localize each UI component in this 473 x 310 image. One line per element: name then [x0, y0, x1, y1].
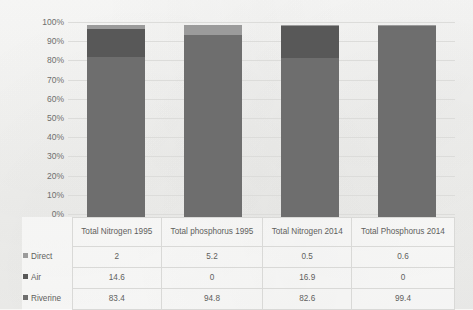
direct-swatch: [23, 253, 28, 258]
stacked-bar[interactable]: [378, 25, 436, 217]
stacked-bar[interactable]: [281, 25, 339, 217]
legend-item-air[interactable]: Air: [22, 268, 73, 289]
legend-label: Air: [31, 273, 41, 282]
bar-segment-riverine[interactable]: [281, 58, 339, 217]
y-axis-tick-label: 30%: [20, 151, 64, 161]
bar-segment-direct[interactable]: [184, 25, 242, 35]
bar-group: [68, 22, 455, 214]
legend-label: Direct: [31, 252, 52, 261]
table-cell: 99.4: [351, 289, 454, 310]
legend-item-riverine[interactable]: Riverine: [22, 289, 73, 310]
legend-label: Riverine: [31, 294, 61, 303]
table-row: Air14.6016.90: [22, 268, 455, 289]
table-column-header: Total Phosphorus 2014: [351, 218, 454, 247]
plot-area: [68, 22, 455, 214]
table-column-header: Total Nitrogen 1995: [73, 218, 162, 247]
table-cell: 16.9: [263, 268, 352, 289]
table-cell: 83.4: [73, 289, 162, 310]
table-cell: 14.6: [73, 268, 162, 289]
bar-segment-air[interactable]: [281, 26, 339, 58]
bar-segment-riverine[interactable]: [184, 35, 242, 217]
table-cell: 94.8: [161, 289, 263, 310]
table-header-row: Total Nitrogen 1995Total phosphorus 1995…: [22, 218, 455, 247]
air-swatch: [23, 274, 28, 279]
table-cell: 0.6: [351, 247, 454, 268]
legend-item-direct[interactable]: Direct: [22, 247, 73, 268]
bar-slot: [68, 22, 165, 214]
table-cell: 5.2: [161, 247, 263, 268]
table-cell: 2: [73, 247, 162, 268]
y-axis-tick-label: 50%: [20, 113, 64, 123]
stacked-bar[interactable]: [87, 25, 145, 217]
bar-segment-riverine[interactable]: [87, 57, 145, 217]
bar-slot: [165, 22, 262, 214]
data-table: Total Nitrogen 1995Total phosphorus 1995…: [22, 217, 455, 310]
y-axis-tick-label: 60%: [20, 94, 64, 104]
table-cell: 0: [351, 268, 454, 289]
y-axis-tick-label: 20%: [20, 171, 64, 181]
table-row: Direct25.20.50.6: [22, 247, 455, 268]
table-column-header: Total Nitrogen 2014: [263, 218, 352, 247]
bar-segment-riverine[interactable]: [378, 26, 436, 217]
table-corner-cell: [22, 218, 73, 247]
table-cell: 82.6: [263, 289, 352, 310]
y-axis-tick-label: 40%: [20, 132, 64, 142]
bar-slot: [262, 22, 359, 214]
stacked-bar[interactable]: [184, 25, 242, 217]
y-axis-tick-label: 80%: [20, 55, 64, 65]
y-axis-tick-label: 70%: [20, 75, 64, 85]
y-axis-tick-label: 100%: [20, 17, 64, 27]
y-axis-tick-label: 90%: [20, 36, 64, 46]
y-axis-tick-label: 10%: [20, 190, 64, 200]
table-cell: 0.5: [263, 247, 352, 268]
bar-slot: [358, 22, 455, 214]
riverine-swatch: [23, 295, 28, 300]
table-row: Riverine83.494.882.699.4: [22, 289, 455, 310]
bar-segment-air[interactable]: [87, 29, 145, 57]
table-cell: 0: [161, 268, 263, 289]
table-column-header: Total phosphorus 1995: [161, 218, 263, 247]
